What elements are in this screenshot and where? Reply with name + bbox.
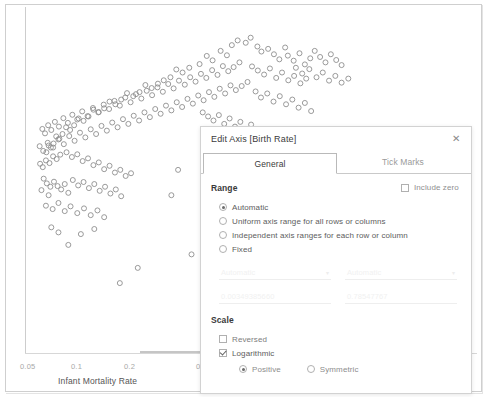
scale-option-logarithmic[interactable]: Logarithmic — [219, 346, 461, 360]
scatter-point — [180, 70, 185, 75]
scatter-point — [286, 78, 291, 83]
range-option-automatic[interactable]: Automatic — [219, 200, 461, 214]
scatter-point — [258, 95, 263, 100]
reversed-checkbox-icon[interactable] — [219, 335, 227, 343]
scatter-point — [86, 156, 91, 161]
scale-option-reversed[interactable]: Reversed — [219, 332, 461, 346]
scatter-point — [95, 208, 100, 213]
scatter-point — [160, 89, 165, 94]
range-fields-group: Automatic ▾ Automatic ▾ 0.00349385660 0.… — [219, 267, 457, 304]
range-end-value-field[interactable]: 0.78547767 — [345, 291, 457, 304]
dialog-titlebar: Edit Axis [Birth Rate] ✕ — [201, 127, 471, 151]
range-end-value: 0.78547767 — [347, 292, 388, 301]
range-start-value: 0.00349385660 — [221, 292, 274, 301]
scatter-point — [255, 44, 260, 49]
scatter-point — [49, 127, 54, 132]
radio-fixed-icon[interactable] — [219, 245, 227, 253]
scatter-point — [91, 163, 96, 168]
scatter-point — [300, 71, 305, 76]
tab-tick-marks[interactable]: Tick Marks — [337, 152, 469, 173]
scatter-point — [58, 152, 63, 157]
scatter-point — [102, 167, 107, 172]
scatter-point — [120, 117, 125, 122]
close-icon[interactable]: ✕ — [449, 132, 463, 146]
scatter-point — [223, 91, 228, 96]
scatter-point — [59, 187, 64, 192]
scatter-point — [56, 230, 61, 235]
scatter-point — [75, 211, 80, 216]
x-tick-label-2: 0.2 — [124, 362, 135, 371]
scatter-point — [82, 206, 87, 211]
scatter-point — [129, 171, 134, 176]
scatter-point — [78, 232, 83, 237]
scatter-point — [323, 60, 328, 65]
scatter-point — [218, 48, 223, 53]
scatter-point — [333, 73, 338, 78]
radio-automatic-icon[interactable] — [219, 203, 227, 211]
radio-uniform-icon[interactable] — [219, 217, 227, 225]
reversed-label: Reversed — [232, 335, 267, 344]
scatter-point — [182, 82, 187, 87]
range-end-select[interactable]: Automatic ▾ — [345, 267, 457, 280]
screenshot-root: 0.05 0.1 0.2 0.5 Infant Mortality Rate E… — [0, 0, 487, 397]
scatter-point — [293, 65, 298, 70]
range-start-select-value: Automatic — [221, 268, 255, 277]
log-mode-positive-label: Positive — [252, 365, 281, 374]
scatter-point — [250, 64, 255, 69]
radio-symmetric-icon[interactable] — [307, 365, 315, 373]
scatter-point — [123, 173, 128, 178]
range-start-value-field[interactable]: 0.00349385660 — [219, 291, 331, 304]
scatter-point — [43, 158, 48, 163]
dialog-body: Range Automatic Uniform axis range for a… — [201, 174, 471, 376]
scatter-point — [216, 113, 221, 118]
scatter-point — [48, 184, 53, 189]
radio-independent-icon[interactable] — [219, 231, 227, 239]
scatter-point — [143, 83, 148, 88]
scatter-point — [309, 109, 314, 114]
scatter-point — [235, 38, 240, 43]
scatter-point — [97, 188, 102, 193]
scatter-point — [174, 67, 179, 72]
scatter-point — [259, 49, 264, 54]
scatter-point — [312, 48, 317, 53]
include-zero-option[interactable]: Include zero — [401, 183, 459, 192]
scatter-point — [304, 76, 309, 81]
scatter-point — [169, 193, 174, 198]
scatter-point — [117, 103, 122, 108]
scatter-point — [277, 57, 282, 62]
scatter-point — [135, 265, 140, 270]
scatter-point — [72, 123, 77, 128]
radio-positive-icon[interactable] — [239, 365, 247, 373]
range-option-uniform[interactable]: Uniform axis range for all rows or colum… — [219, 214, 461, 228]
scatter-point — [101, 102, 106, 107]
scatter-point — [61, 142, 66, 147]
scatter-point — [112, 170, 117, 175]
scatter-point — [142, 110, 147, 115]
scatter-point — [126, 121, 131, 126]
scatter-point — [62, 209, 67, 214]
logarithmic-checkbox-icon[interactable] — [219, 349, 227, 357]
scatter-point — [285, 53, 290, 58]
tab-general[interactable]: General — [203, 153, 337, 174]
scatter-point — [277, 94, 282, 99]
scatter-point — [137, 118, 142, 123]
include-zero-checkbox-icon[interactable] — [401, 184, 409, 192]
scatter-point — [61, 116, 66, 121]
scatter-point — [290, 97, 295, 102]
scatter-point — [189, 252, 194, 257]
scatter-point — [185, 96, 190, 101]
scatter-point — [99, 123, 104, 128]
scatter-point — [255, 68, 260, 73]
scatter-point — [107, 99, 112, 104]
range-option-independent[interactable]: Independent axis ranges for each row or … — [219, 228, 461, 242]
range-option-fixed[interactable]: Fixed — [219, 242, 461, 256]
range-select-row: Automatic ▾ Automatic ▾ — [219, 267, 457, 280]
scatter-point — [320, 70, 325, 75]
scatter-point — [66, 190, 71, 195]
scatter-point — [271, 52, 276, 57]
range-start-select[interactable]: Automatic ▾ — [219, 267, 331, 280]
scatter-point — [70, 178, 75, 183]
scatter-point — [193, 79, 198, 84]
scatter-point — [118, 167, 123, 172]
scatter-point — [44, 150, 49, 155]
